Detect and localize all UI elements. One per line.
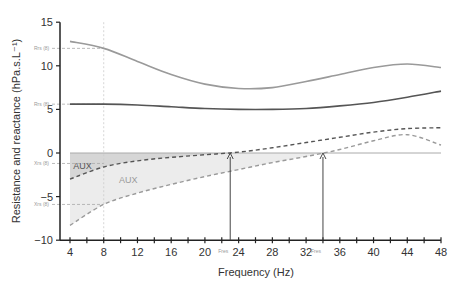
x-tick-label: 20 — [199, 246, 211, 258]
y-tick-label: 10 — [41, 60, 53, 72]
series-lines — [70, 41, 441, 225]
x-tick-label: 24 — [233, 246, 245, 258]
x-tick-label: 44 — [401, 246, 413, 258]
x-tick-label: 8 — [101, 246, 107, 258]
aux-areas — [70, 153, 323, 225]
x-tick-label: 4 — [67, 246, 73, 258]
y-tick-label: 15 — [41, 16, 53, 28]
series-line-0 — [70, 41, 441, 88]
reference-label: Xrs (8) — [34, 160, 49, 166]
y-axis-title: Resistance and reactance (hPa.s.L⁻¹) — [10, 39, 22, 224]
series-line-1 — [70, 91, 441, 109]
x-tick-label: 48 — [435, 246, 447, 258]
aux-dark-label: AUX — [73, 161, 92, 171]
reference-label: Rrs (8) — [34, 101, 50, 107]
aux-light-label: AUX — [119, 175, 138, 185]
x-axis-title: Frequency (Hz) — [218, 266, 294, 278]
x-tick-label: 36 — [334, 246, 346, 258]
reference-label: Xrs (8) — [34, 201, 49, 207]
x-tick-label: 12 — [131, 246, 143, 258]
y-tick-label: −10 — [34, 234, 53, 246]
x-tick-label: 28 — [266, 246, 278, 258]
chart: 151050−5−104812162024283236404448 Rrs (8… — [0, 0, 465, 288]
fres-label: Fres — [218, 248, 229, 254]
x-tick-label: 40 — [367, 246, 379, 258]
reference-label: Rrs (8) — [34, 45, 50, 51]
x-tick-label: 16 — [165, 246, 177, 258]
y-tick-label: 0 — [47, 147, 53, 159]
fres-label: Fres — [311, 248, 322, 254]
